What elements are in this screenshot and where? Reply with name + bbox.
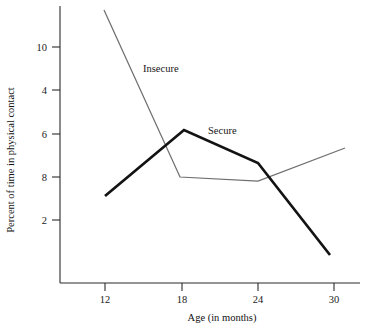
series-line-secure [105,130,330,255]
x-axis-title: Age (in months) [188,312,257,324]
y-axis-title: Percent of time in physical contact [5,87,16,233]
y-tick-label-0: 10 [37,42,48,53]
x-tick-label-0: 12 [100,294,111,305]
x-tick-label-3: 30 [329,294,340,305]
x-tick-label-1: 18 [177,294,188,305]
series-annotation-insecure: Insecure [143,63,179,74]
series-line-insecure [104,10,345,181]
y-tick-label-4: 2 [42,215,47,226]
y-tick-label-2: 6 [42,129,47,140]
chart-figure: 10 4 6 8 2 12 18 24 30 Age (in months) P… [0,0,368,326]
x-tick-label-2: 24 [253,294,264,305]
line-chart-canvas: 10 4 6 8 2 12 18 24 30 Age (in months) P… [0,0,368,326]
y-tick-label-3: 8 [42,172,47,183]
series-annotation-secure: Secure [208,125,237,136]
y-tick-label-1: 4 [42,85,48,96]
